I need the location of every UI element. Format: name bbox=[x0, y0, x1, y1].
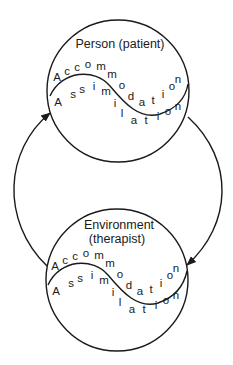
accommodation-letter: a bbox=[137, 285, 144, 297]
assimilation-letter: m bbox=[101, 85, 111, 97]
assimilation-letter: A bbox=[54, 96, 62, 108]
environment-letters: AccommodationAssimilation bbox=[51, 247, 179, 315]
assimilation-letter: s bbox=[68, 277, 74, 289]
accommodation-letter: i bbox=[162, 88, 165, 100]
assimilation-letter: A bbox=[52, 285, 60, 297]
assimilation-letter: t bbox=[142, 303, 146, 315]
accommodation-letter: o bbox=[117, 268, 123, 280]
accommodation-letter: c bbox=[64, 65, 70, 77]
accommodation-letter: i bbox=[160, 277, 163, 289]
person-title: Person (patient) bbox=[76, 37, 165, 51]
accommodation-letter: m bbox=[94, 249, 104, 261]
accommodation-letter: d bbox=[128, 90, 134, 102]
accommodation-letter: d bbox=[126, 279, 132, 291]
accommodation-letter: o bbox=[85, 58, 91, 70]
accommodation-letter: c bbox=[74, 61, 80, 73]
accommodation-letter: o bbox=[83, 247, 89, 259]
accommodation-letter: a bbox=[139, 96, 146, 108]
assimilation-letter: s bbox=[77, 272, 83, 284]
assimilation-letter: i bbox=[93, 80, 96, 92]
assimilation-letter: n bbox=[173, 289, 179, 301]
assimilation-letter: l bbox=[119, 296, 122, 308]
assimilation-letter: i bbox=[91, 269, 94, 281]
accommodation-letter: m bbox=[105, 257, 115, 269]
assimilation-letter: n bbox=[175, 100, 181, 112]
assimilation-letter: s bbox=[79, 83, 85, 95]
environment-node: Environment (therapist) AccommodationAss… bbox=[46, 209, 188, 351]
assimilation-letter: i bbox=[114, 97, 117, 109]
accommodation-letter: t bbox=[151, 94, 155, 106]
assimilation-letter: i bbox=[112, 286, 115, 298]
accommodation-letter: o bbox=[119, 79, 125, 91]
assimilation-letter: l bbox=[121, 107, 124, 119]
assimilation-letter: o bbox=[163, 294, 169, 306]
environment-title-line-2: (therapist) bbox=[89, 232, 145, 246]
assimilation-letter: s bbox=[70, 88, 76, 100]
accommodation-letter: t bbox=[149, 283, 153, 295]
accommodation-letter: n bbox=[173, 262, 179, 274]
assimilation-letter: a bbox=[131, 114, 138, 126]
person-node: Person (patient) AccommodationAssimilati… bbox=[47, 20, 189, 162]
assimilation-letter: a bbox=[129, 303, 136, 315]
person-letters: AccommodationAssimilation bbox=[53, 58, 181, 126]
assimilation-letter: i bbox=[157, 110, 160, 122]
accommodation-letter: m bbox=[96, 60, 106, 72]
accommodation-letter: n bbox=[175, 73, 181, 85]
accommodation-letter: A bbox=[53, 71, 61, 83]
accommodation-letter: m bbox=[107, 68, 117, 80]
accommodation-letter: c bbox=[72, 250, 78, 262]
accommodation-letter: c bbox=[62, 254, 68, 266]
left-arrow bbox=[14, 113, 50, 266]
assimilation-letter: t bbox=[144, 114, 148, 126]
environment-title-line-1: Environment bbox=[84, 218, 155, 232]
right-arrow bbox=[187, 117, 222, 265]
assimilation-accommodation-diagram: Person (patient) AccommodationAssimilati… bbox=[0, 0, 233, 365]
assimilation-letter: i bbox=[155, 299, 158, 311]
assimilation-letter: o bbox=[165, 105, 171, 117]
accommodation-letter: A bbox=[51, 260, 59, 272]
assimilation-letter: m bbox=[99, 274, 109, 286]
